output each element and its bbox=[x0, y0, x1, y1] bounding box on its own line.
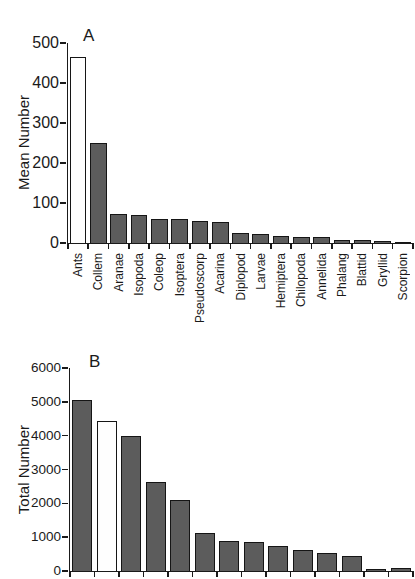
panel-a-category-label: Blattid bbox=[356, 253, 368, 286]
panel-a-y-axis-title: Mean Number bbox=[15, 95, 32, 190]
bar-b-7 bbox=[219, 541, 239, 571]
panel-a-category-label: Isopoda bbox=[133, 253, 145, 296]
bar-b-9 bbox=[268, 546, 288, 571]
panel-b-y-tick bbox=[62, 503, 68, 505]
bar-b-3 bbox=[121, 436, 141, 571]
bar-ants bbox=[70, 57, 87, 243]
panel-b-x-tick bbox=[192, 571, 194, 577]
panel-b-y-tick bbox=[62, 435, 68, 437]
panel-a-x-tick bbox=[67, 243, 69, 249]
panel-a-y-tick-label: 300 bbox=[11, 115, 59, 131]
panel-a-y-tick-label: 200 bbox=[11, 155, 59, 171]
panel-b-y-tick-label: 3000 bbox=[13, 462, 61, 478]
bar-larvae bbox=[252, 234, 269, 243]
panel-b-x-tick bbox=[265, 571, 267, 577]
bar-b-4 bbox=[146, 482, 166, 571]
bar-b-6 bbox=[195, 533, 215, 571]
panel-b-y-tick-label: 4000 bbox=[13, 428, 61, 444]
panel-a-category-label: Larvae bbox=[255, 253, 267, 290]
panel-b-y-tick-label: 0 bbox=[13, 563, 61, 579]
panel-a-y-tick bbox=[60, 82, 66, 84]
panel-b-x-tick bbox=[363, 571, 365, 577]
panel-a-x-tick bbox=[87, 243, 89, 249]
panel-b-plot-area: 0100020003000400050006000 bbox=[69, 368, 413, 572]
bar-isoptera bbox=[171, 219, 188, 243]
bar-hemiptera bbox=[273, 236, 290, 243]
panel-b-y-tick bbox=[62, 401, 68, 403]
panel-a-y-tick bbox=[60, 122, 66, 124]
panel-a-x-tick bbox=[372, 243, 374, 249]
panel-b-x-tick bbox=[143, 571, 145, 577]
panel-b-y-tick bbox=[62, 469, 68, 471]
bar-collem bbox=[90, 143, 107, 243]
panel-a-y-tick-label: 500 bbox=[11, 35, 59, 51]
panel-b-x-tick bbox=[314, 571, 316, 577]
bar-isopoda bbox=[131, 215, 148, 243]
panel-a-x-tick bbox=[148, 243, 150, 249]
panel-a-category-label: Ants bbox=[72, 253, 84, 277]
panel-a-category-label: Aranae bbox=[113, 253, 125, 292]
panel-b-y-tick bbox=[62, 536, 68, 538]
bar-chilopoda bbox=[293, 237, 310, 243]
bar-b-1 bbox=[72, 400, 92, 571]
bar-scorpion bbox=[395, 242, 412, 243]
bar-b-12 bbox=[342, 556, 362, 571]
panel-b-x-tick bbox=[216, 571, 218, 577]
panel-b-y-tick-label: 2000 bbox=[13, 495, 61, 511]
panel-a-x-tick bbox=[351, 243, 353, 249]
bar-b-5 bbox=[170, 500, 190, 571]
panel-a-category-label: Scorpion bbox=[397, 253, 409, 300]
panel-a-category-label: Pseudoscorp bbox=[194, 253, 206, 323]
panel-a-x-tick bbox=[209, 243, 211, 249]
panel-a-category-label: Acarina bbox=[214, 253, 226, 294]
bar-b-8 bbox=[244, 542, 264, 571]
bar-gryllid bbox=[374, 241, 391, 243]
panel-a-x-tick bbox=[230, 243, 232, 249]
bar-b-2 bbox=[97, 421, 117, 571]
panel-b-y-tick-label: 5000 bbox=[13, 394, 61, 410]
bar-aranae bbox=[110, 214, 127, 243]
panel-a-category-label: Annelida bbox=[316, 253, 328, 300]
panel-a-category-label: Hemiptera bbox=[275, 253, 287, 308]
bar-diplopod bbox=[232, 233, 249, 243]
panel-b-y-tick bbox=[62, 367, 68, 369]
panel-a-y-axis-title-wrap: Mean Number bbox=[10, 43, 36, 243]
panel-a-category-label: Isoptera bbox=[174, 253, 186, 296]
panel-a-x-tick bbox=[290, 243, 292, 249]
bar-b-11 bbox=[317, 553, 337, 571]
panel-a-category-label: Coleop bbox=[153, 253, 165, 291]
panel-a-y-tick-label: 0 bbox=[11, 235, 59, 251]
panel-a-y-tick bbox=[60, 162, 66, 164]
panel-a-y-tick-label: 100 bbox=[11, 195, 59, 211]
bar-pseudoscorp bbox=[192, 221, 209, 243]
bar-b-14 bbox=[391, 568, 411, 571]
bar-acarina bbox=[212, 222, 229, 243]
panel-a-category-label: Chilopoda bbox=[295, 253, 307, 307]
panel-a-y-tick bbox=[60, 242, 66, 244]
bar-b-13 bbox=[366, 569, 386, 571]
panel-a-x-tick bbox=[311, 243, 313, 249]
panel-a-x-tick bbox=[412, 243, 414, 249]
panel-a-x-tick bbox=[392, 243, 394, 249]
panel-b-x-tick bbox=[94, 571, 96, 577]
panel-b-x-tick bbox=[339, 571, 341, 577]
panel-a-x-tick bbox=[128, 243, 130, 249]
panel-a-category-label: Phalang bbox=[336, 253, 348, 297]
panel-b-x-tick bbox=[167, 571, 169, 577]
panel-b-x-tick bbox=[241, 571, 243, 577]
panel-b-x-tick bbox=[412, 571, 414, 577]
panel-b-x-tick bbox=[118, 571, 120, 577]
panel-a-x-tick bbox=[108, 243, 110, 249]
panel-a-x-tick bbox=[331, 243, 333, 249]
panel-b-y-tick bbox=[62, 570, 68, 572]
panel-a-y-tick-label: 400 bbox=[11, 75, 59, 91]
panel-a-category-label: Diplopod bbox=[235, 253, 247, 300]
panel-b-x-tick bbox=[290, 571, 292, 577]
bar-coleop bbox=[151, 219, 168, 243]
panel-a-y-tick bbox=[60, 42, 66, 44]
panel-a-plot-area: 0100200300400500AntsCollemAranaeIsopodaC… bbox=[67, 43, 413, 244]
bar-blattid bbox=[354, 240, 371, 243]
panel-b-y-tick-label: 6000 bbox=[13, 360, 61, 376]
panel-b-x-tick bbox=[69, 571, 71, 577]
